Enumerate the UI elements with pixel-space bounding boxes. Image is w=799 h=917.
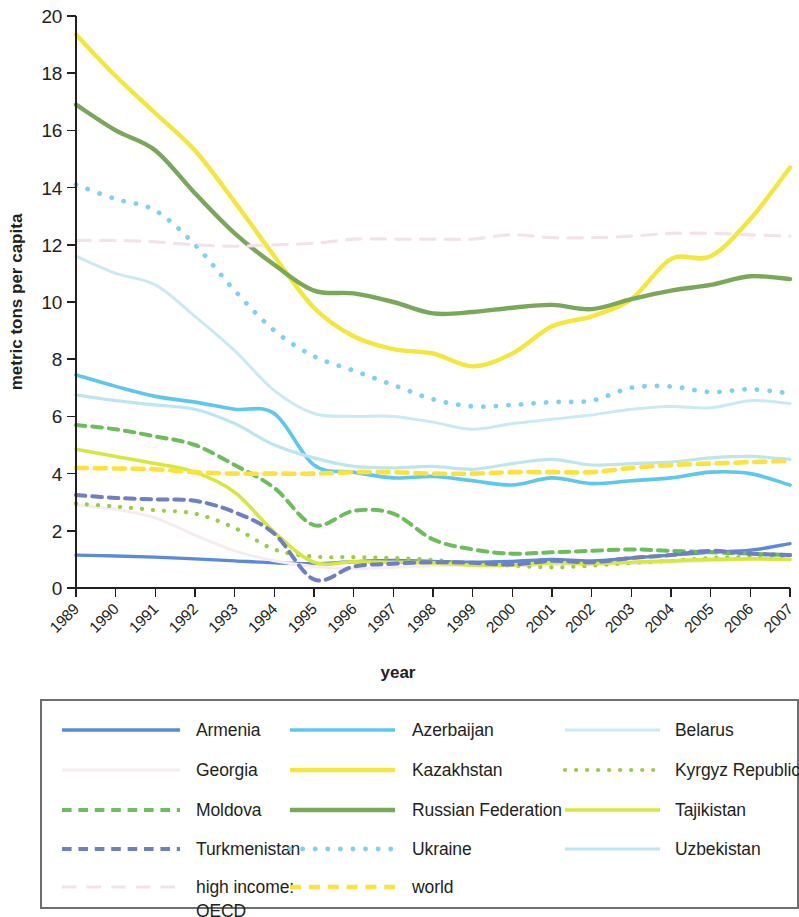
legend-item-turkmenistan[interactable]: Turkmenistan bbox=[62, 839, 300, 859]
series-line-ukraine bbox=[76, 185, 790, 407]
legend-item-ukraine[interactable]: Ukraine bbox=[290, 839, 472, 859]
legend-label-georgia: Georgia bbox=[196, 760, 258, 780]
y-tick-label: 4 bbox=[52, 464, 63, 485]
legend-item-uzbekistan[interactable]: Uzbekistan bbox=[565, 839, 761, 859]
legend-label-belarus: Belarus bbox=[675, 720, 734, 740]
legend-item-azerbaijan[interactable]: Azerbaijan bbox=[290, 720, 494, 740]
legend-label-high-income-oecd: OECD bbox=[196, 901, 246, 917]
y-tick-label: 20 bbox=[41, 6, 62, 27]
y-tick-label: 18 bbox=[41, 63, 62, 84]
x-tick-label: 1991 bbox=[126, 600, 162, 636]
x-axis-title: year bbox=[381, 663, 416, 682]
co2-emissions-line-chart: 0246810121416182019891990199119921993199… bbox=[0, 0, 799, 917]
x-tick-label: 2004 bbox=[641, 600, 677, 636]
x-tick-label: 2000 bbox=[483, 600, 519, 636]
legend-item-kyrgyz-republic[interactable]: Kyrgyz Republic bbox=[565, 760, 799, 780]
legend-item-tajikistan[interactable]: Tajikistan bbox=[565, 800, 746, 820]
x-tick-label: 1992 bbox=[165, 600, 201, 636]
x-tick-label: 1995 bbox=[284, 600, 320, 636]
x-tick-label: 1989 bbox=[46, 600, 82, 636]
y-axis-title: metric tons per capita bbox=[7, 213, 26, 390]
x-tick-label: 1999 bbox=[443, 600, 479, 636]
y-tick-label: 0 bbox=[52, 578, 62, 599]
x-tick-label: 2002 bbox=[562, 600, 598, 636]
legend-item-kazakhstan[interactable]: Kazakhstan bbox=[290, 760, 502, 780]
legend-label-uzbekistan: Uzbekistan bbox=[675, 839, 761, 859]
y-tick-label: 8 bbox=[52, 349, 62, 370]
x-tick-label: 1996 bbox=[324, 600, 360, 636]
legend-item-high-income-oecd[interactable]: high income:OECD bbox=[62, 877, 294, 917]
legend-label-armenia: Armenia bbox=[196, 720, 261, 740]
legend-item-armenia[interactable]: Armenia bbox=[62, 720, 261, 740]
x-tick-label: 2007 bbox=[760, 600, 796, 636]
legend-label-moldova: Moldova bbox=[196, 800, 262, 820]
x-tick-label: 1998 bbox=[403, 600, 439, 636]
series-line-belarus bbox=[76, 256, 790, 429]
legend-label-kazakhstan: Kazakhstan bbox=[412, 760, 502, 780]
x-tick-label: 2001 bbox=[522, 600, 558, 636]
legend-item-georgia[interactable]: Georgia bbox=[62, 760, 258, 780]
legend-label-ukraine: Ukraine bbox=[412, 839, 472, 859]
x-tick-label: 1997 bbox=[364, 600, 400, 636]
x-tick-label: 2006 bbox=[721, 600, 757, 636]
x-tick-label: 2003 bbox=[602, 600, 638, 636]
legend-item-russian-federation[interactable]: Russian Federation bbox=[290, 800, 562, 820]
y-tick-label: 2 bbox=[52, 521, 62, 542]
x-tick-label: 1990 bbox=[86, 600, 122, 636]
legend-item-belarus[interactable]: Belarus bbox=[565, 720, 734, 740]
legend-item-world[interactable]: world bbox=[290, 877, 453, 897]
axes: 0246810121416182019891990199119921993199… bbox=[41, 6, 796, 636]
chart-legend: ArmeniaAzerbaijanBelarusGeorgiaKazakhsta… bbox=[41, 700, 799, 917]
x-tick-label: 2005 bbox=[681, 600, 717, 636]
x-tick-label: 1994 bbox=[245, 600, 281, 636]
legend-label-world: world bbox=[411, 877, 453, 897]
y-tick-label: 10 bbox=[41, 292, 62, 313]
series-line-moldova bbox=[76, 425, 790, 555]
legend-label-high-income-oecd: high income: bbox=[196, 877, 294, 897]
legend-label-kyrgyz-republic: Kyrgyz Republic bbox=[675, 760, 799, 780]
plot-area bbox=[76, 35, 790, 581]
y-tick-label: 16 bbox=[41, 120, 62, 141]
legend-label-russian-federation: Russian Federation bbox=[412, 800, 562, 820]
x-tick-label: 1993 bbox=[205, 600, 241, 636]
y-tick-label: 6 bbox=[52, 406, 62, 427]
series-line-high-income-oecd bbox=[76, 233, 790, 246]
y-tick-label: 14 bbox=[41, 178, 62, 199]
legend-item-moldova[interactable]: Moldova bbox=[62, 800, 262, 820]
legend-label-turkmenistan: Turkmenistan bbox=[196, 839, 300, 859]
y-tick-label: 12 bbox=[41, 235, 62, 256]
legend-label-tajikistan: Tajikistan bbox=[675, 800, 746, 820]
legend-label-azerbaijan: Azerbaijan bbox=[412, 720, 494, 740]
series-line-kazakhstan bbox=[76, 35, 790, 367]
